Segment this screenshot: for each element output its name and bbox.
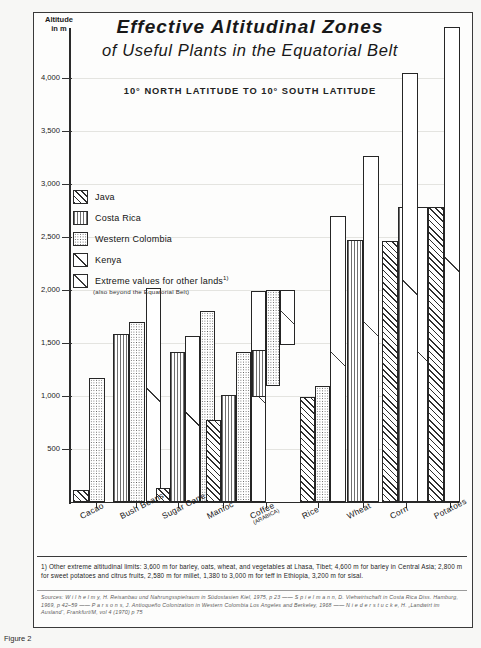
legend-label: Extreme values for other lands1) (95, 275, 229, 286)
chart-legend: JavaCosta RicaWestern ColombiaKenyaExtre… (73, 186, 303, 295)
bar-manioc-costa-rica (221, 395, 236, 502)
bar-cacao-western-colombia (89, 378, 105, 502)
sources-text: Sources: W i l h e l m y, H. Reisanbau u… (41, 594, 463, 617)
bar-cacao-java (73, 490, 89, 502)
bar-rice-western-colombia (315, 386, 330, 502)
bar-bush-beans-extreme (146, 288, 161, 502)
bar-coffee-extreme (280, 290, 295, 345)
legend-label: Java (95, 192, 115, 202)
bar-rice-extreme (330, 216, 346, 502)
bar-coffee-costa-rica (252, 350, 266, 397)
figure-caption: Figure 2 (4, 634, 32, 643)
sources-separator (37, 590, 467, 591)
legend-label: Kenya (95, 255, 122, 265)
plot-area (0, 0, 481, 648)
legend-item-costa-rica: Costa Rica (73, 207, 303, 228)
legend-item-java: Java (73, 186, 303, 207)
legend-sub-note: (also beyond the Equatorial Belt) (93, 288, 303, 295)
bar-wheat-extreme (363, 156, 379, 502)
legend-label: Costa Rica (95, 213, 141, 223)
legend-swatch-icon (73, 253, 88, 267)
legend-swatch-icon (73, 190, 88, 204)
legend-item-western-colombia: Western Colombia (73, 228, 303, 249)
bar-manioc-java (206, 420, 221, 502)
bar-sugar-cane-costa-rica (170, 352, 185, 502)
bar-rice-java (300, 397, 315, 502)
bar-corn-extreme (402, 73, 418, 502)
legend-swatch-icon (73, 211, 88, 225)
legend-label: Western Colombia (95, 234, 172, 244)
bar-potatoes-java (428, 207, 444, 502)
footnote-text: 1) Other extreme altitudinal limits: 3,6… (41, 562, 463, 580)
bar-manioc-western-colombia (236, 352, 251, 502)
notes-separator (37, 556, 467, 557)
bar-corn-java (382, 241, 398, 502)
bar-bush-beans-western-colombia (129, 322, 145, 502)
legend-footnote-marker: 1) (223, 275, 229, 281)
legend-item-kenya: Kenya (73, 249, 303, 270)
bar-wheat-costa-rica (347, 240, 363, 502)
bar-sugar-cane-kenya (185, 336, 200, 502)
bar-bush-beans-costa-rica (113, 334, 129, 502)
bar-potatoes-extreme (444, 27, 460, 502)
legend-swatch-icon (73, 232, 88, 246)
bar-coffee-western-colombia (266, 290, 280, 386)
legend-swatch-icon (73, 274, 88, 288)
figure-page: Effective Altitudinal Zones of Useful Pl… (0, 0, 481, 648)
